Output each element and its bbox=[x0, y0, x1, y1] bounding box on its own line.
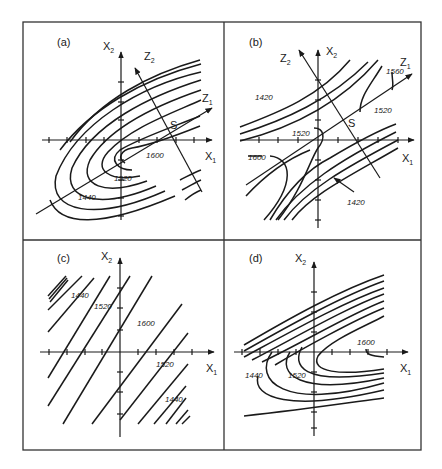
panel-a-x2-label: X2 bbox=[103, 40, 114, 54]
panel-d-x1-label: X1 bbox=[400, 362, 411, 376]
panel-c-contour-label: 1440 bbox=[71, 291, 89, 300]
panel-c: (c) X2 bbox=[40, 250, 217, 437]
panel-b: (b) bbox=[240, 36, 414, 228]
panel-c-contour-label: 1440 bbox=[165, 395, 183, 404]
panel-b-z1-axis bbox=[246, 74, 412, 185]
panel-d-contour-label: 1520 bbox=[288, 371, 306, 380]
panel-a-z2-label: Z2 bbox=[144, 50, 155, 64]
panel-a-x1-label: X1 bbox=[205, 150, 216, 164]
panel-c-contour-label: 1520 bbox=[94, 302, 112, 311]
panel-d-label: (d) bbox=[249, 252, 262, 264]
panel-a-label: (a) bbox=[57, 36, 70, 48]
panel-a-contour-label: 1520 bbox=[114, 174, 132, 183]
panel-a-contour-label: 1600 bbox=[146, 151, 164, 160]
panel-a: (a) bbox=[36, 36, 216, 220]
panel-d-contour-label: 1600 bbox=[357, 338, 375, 347]
panel-b-x2-label: X2 bbox=[326, 45, 337, 59]
panel-d: (d) X2 X1 bbox=[234, 252, 411, 436]
panel-b-contour-label: 1520 bbox=[292, 129, 310, 138]
panel-b-stationary-point: S bbox=[348, 117, 355, 129]
panel-a-z2-axis bbox=[135, 68, 202, 192]
panel-c-contour-label: 1520 bbox=[156, 360, 174, 369]
panel-d-x2-label: X2 bbox=[295, 252, 306, 266]
panel-c-x2-label: X2 bbox=[101, 250, 112, 264]
figure-frame bbox=[23, 22, 421, 450]
panel-a-stationary-point: S bbox=[170, 119, 177, 131]
panel-b-z2-label: Z2 bbox=[280, 52, 291, 66]
panel-b-x1-label: X1 bbox=[402, 152, 413, 166]
panel-b-contour-label: 1420 bbox=[255, 93, 273, 102]
panel-b-contour-label: 1600 bbox=[248, 153, 266, 162]
panel-b-contour-label: 1420 bbox=[347, 198, 365, 207]
panel-c-label: (c) bbox=[57, 252, 70, 264]
panel-b-contour-label: 1560 bbox=[386, 67, 404, 76]
panel-a-contour-label: 1440 bbox=[78, 193, 96, 202]
panel-b-pointer-arrow bbox=[334, 178, 354, 192]
panel-b-contour-label: 1520 bbox=[374, 106, 392, 115]
panel-c-contour-label: 1600 bbox=[137, 319, 155, 328]
panel-d-contour-label: 1440 bbox=[245, 371, 263, 380]
panel-b-label: (b) bbox=[249, 36, 262, 48]
contour-figure: (a) bbox=[0, 0, 442, 469]
panel-a-z1-label: Z1 bbox=[202, 92, 213, 106]
panel-c-x1-label: X1 bbox=[206, 362, 217, 376]
